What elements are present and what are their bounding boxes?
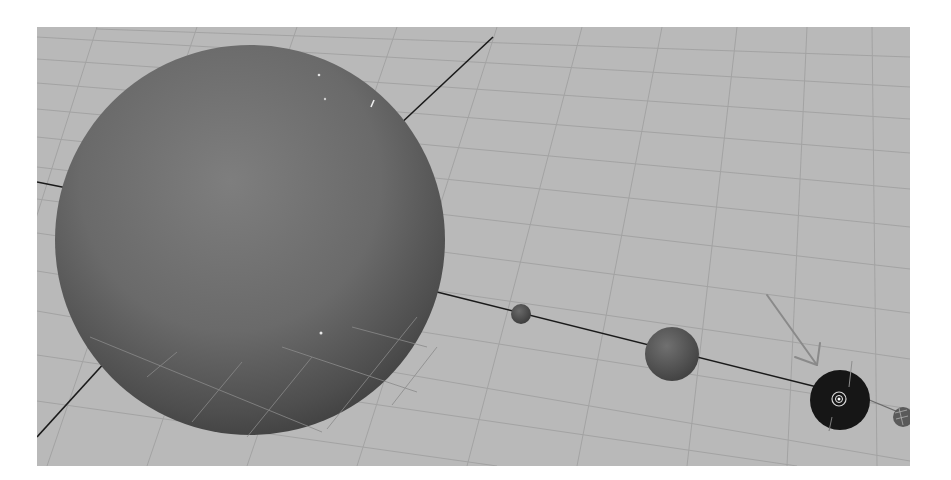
planet-4-sphere[interactable] [893, 407, 910, 427]
sun-sphere[interactable] [55, 45, 445, 437]
planet-2-sphere[interactable] [645, 327, 699, 381]
scene-canvas[interactable] [37, 27, 910, 466]
planet-3-sphere-selected[interactable] [810, 361, 870, 431]
specular-dot [320, 332, 323, 335]
specular-dot [318, 74, 321, 77]
specular-dot [324, 98, 326, 100]
planet-1-sphere[interactable] [511, 304, 531, 324]
3d-viewport[interactable]: 3D perspective viewport [37, 27, 910, 466]
